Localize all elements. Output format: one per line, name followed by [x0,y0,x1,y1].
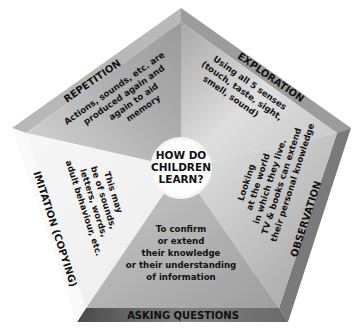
segment-text-line: or extend [158,236,205,246]
learning-pentagon-diagram: HOW DO CHILDREN LEARN? REPETITION Action… [0,0,362,330]
center-line: LEARN? [159,173,204,185]
center-line: HOW DO [156,149,207,161]
center-label: HOW DO CHILDREN LEARN? [151,149,211,185]
segment-text-line: To confirm [156,224,206,234]
segment-text-line: of information [146,272,215,282]
segment-text-line: their knowledge [142,248,221,258]
center-line: CHILDREN [151,161,211,173]
segment-title-asking-questions: ASKING QUESTIONS [127,310,239,321]
segment-text-line: or their understanding [126,260,236,270]
